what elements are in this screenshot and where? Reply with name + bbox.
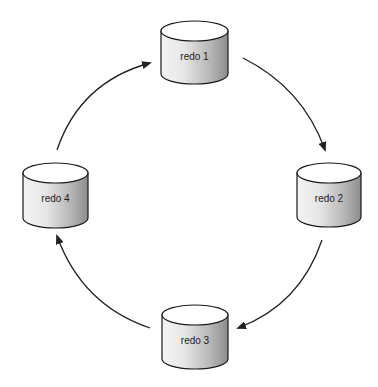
- redo-cycle-diagram: redo 1 redo 2 redo 3 redo 4: [0, 0, 378, 387]
- label-redo-1: redo 1: [180, 51, 209, 62]
- label-redo-4: redo 4: [41, 193, 70, 204]
- cylinder-redo-1: redo 1: [161, 21, 228, 84]
- label-redo-3: redo 3: [181, 335, 210, 346]
- arrow-redo1-to-redo2: [243, 58, 325, 150]
- arrow-redo2-to-redo3: [238, 240, 322, 328]
- cylinder-redo-4: redo 4: [23, 163, 88, 228]
- label-redo-2: redo 2: [315, 193, 344, 204]
- cylinder-redo-3: redo 3: [162, 305, 228, 369]
- arrow-redo4-to-redo1: [57, 63, 150, 150]
- arrow-redo3-to-redo4: [57, 236, 150, 328]
- cylinder-redo-2: redo 2: [297, 163, 361, 227]
